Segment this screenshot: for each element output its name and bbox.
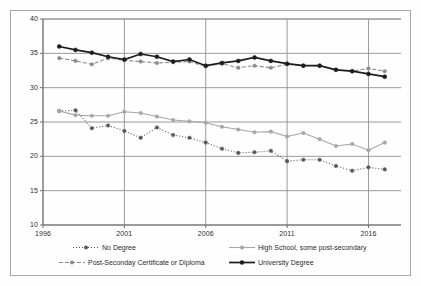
chart-frame: 1015202530354019962001200620112016 No De… <box>10 10 411 276</box>
series-marker-2 <box>269 66 273 70</box>
series-marker-1 <box>204 121 208 125</box>
legend-swatch-icon <box>73 243 99 252</box>
x-axis-tick-label: 1996 <box>27 230 59 237</box>
legend-label: University Degree <box>258 259 314 266</box>
series-marker-0 <box>318 158 322 162</box>
series-marker-3 <box>106 55 110 59</box>
y-axis-tick-label: 40 <box>13 15 38 22</box>
series-marker-3 <box>187 58 191 62</box>
series-marker-1 <box>139 111 143 115</box>
series-marker-1 <box>220 125 224 129</box>
series-marker-3 <box>139 52 143 56</box>
series-marker-3 <box>285 62 289 66</box>
series-marker-1 <box>155 115 159 119</box>
series-marker-3 <box>334 68 338 72</box>
series-marker-1 <box>318 137 322 141</box>
series-marker-0 <box>220 147 224 151</box>
series-marker-2 <box>383 69 387 73</box>
series-marker-3 <box>57 44 61 48</box>
series-marker-3 <box>253 55 257 59</box>
series-marker-0 <box>367 166 371 170</box>
series-marker-3 <box>122 58 126 62</box>
x-axis-tick-label: 2001 <box>108 230 140 237</box>
series-marker-1 <box>367 148 371 152</box>
series-marker-2 <box>74 59 78 63</box>
series-marker-1 <box>106 114 110 118</box>
series-marker-1 <box>253 131 257 135</box>
series-marker-3 <box>383 75 387 79</box>
series-marker-2 <box>236 66 240 70</box>
series-marker-3 <box>301 64 305 68</box>
series-marker-3 <box>74 48 78 52</box>
series-marker-0 <box>171 133 175 137</box>
series-marker-0 <box>383 168 387 172</box>
series-marker-1 <box>188 120 192 124</box>
y-axis-tick-label: 25 <box>13 118 38 125</box>
series-marker-1 <box>302 131 306 135</box>
legend-item-3[interactable]: University Degree <box>229 258 314 267</box>
series-marker-0 <box>236 151 240 155</box>
series-marker-0 <box>106 124 110 128</box>
y-axis-tick-label: 30 <box>13 84 38 91</box>
series-marker-1 <box>383 141 387 145</box>
legend-label: High School, some post-secondary <box>258 244 367 251</box>
series-marker-1 <box>285 135 289 139</box>
series-marker-3 <box>204 64 208 68</box>
series-marker-3 <box>269 59 273 63</box>
series-marker-1 <box>334 144 338 148</box>
series-marker-0 <box>90 126 94 130</box>
y-axis-tick-label: 15 <box>13 187 38 194</box>
series-marker-2 <box>90 63 94 67</box>
series-marker-0 <box>285 159 289 163</box>
x-axis-tick-label: 2006 <box>190 230 222 237</box>
series-marker-1 <box>123 110 127 114</box>
series-marker-0 <box>269 149 273 153</box>
legend-swatch-icon <box>229 258 255 267</box>
series-marker-0 <box>188 136 192 140</box>
series-marker-2 <box>155 61 159 65</box>
series-line-0 <box>59 110 384 170</box>
series-marker-3 <box>155 55 159 59</box>
chart-figure: 1015202530354019962001200620112016 No De… <box>0 0 421 286</box>
legend-swatch-icon <box>59 258 85 267</box>
series-marker-0 <box>253 150 257 154</box>
series-marker-2 <box>253 64 257 68</box>
legend-item-1[interactable]: High School, some post-secondary <box>229 243 367 252</box>
legend-swatch-icon <box>229 243 255 252</box>
series-marker-0 <box>302 158 306 162</box>
series-marker-0 <box>204 141 208 145</box>
legend-label: Post-Seconday Certificate or Diploma <box>88 259 205 266</box>
y-axis-tick-label: 20 <box>13 152 38 159</box>
x-axis-tick-label: 2016 <box>352 230 384 237</box>
series-marker-0 <box>123 129 127 133</box>
series-marker-1 <box>350 142 354 146</box>
y-axis-tick-label: 10 <box>13 221 38 228</box>
series-marker-0 <box>74 109 78 113</box>
series-marker-1 <box>74 113 78 117</box>
series-marker-1 <box>171 118 175 122</box>
series-marker-2 <box>57 56 61 60</box>
series-marker-1 <box>57 109 61 113</box>
x-axis-tick-label: 2011 <box>271 230 303 237</box>
series-marker-3 <box>366 72 370 76</box>
legend-label: No Degree <box>102 244 136 251</box>
series-marker-0 <box>139 136 143 140</box>
legend-item-2[interactable]: Post-Seconday Certificate or Diploma <box>59 258 205 267</box>
series-marker-0 <box>350 169 354 173</box>
series-marker-3 <box>171 60 175 64</box>
series-marker-2 <box>367 67 371 71</box>
series-marker-3 <box>220 61 224 65</box>
legend-item-0[interactable]: No Degree <box>73 243 136 252</box>
y-axis-tick-label: 35 <box>13 49 38 56</box>
series-marker-1 <box>269 130 273 134</box>
series-marker-3 <box>350 69 354 73</box>
series-marker-3 <box>236 59 240 63</box>
series-marker-0 <box>334 164 338 168</box>
series-marker-2 <box>139 60 143 64</box>
series-marker-3 <box>90 51 94 55</box>
series-marker-3 <box>318 64 322 68</box>
series-marker-1 <box>90 114 94 118</box>
series-marker-1 <box>236 128 240 132</box>
series-marker-0 <box>155 126 159 130</box>
